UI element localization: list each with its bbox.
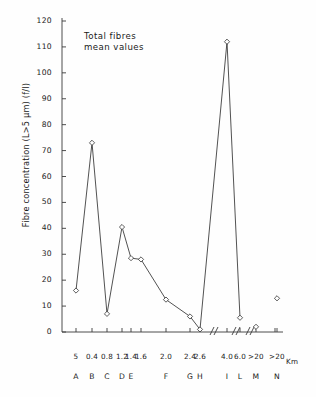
chart-plot-area <box>0 0 316 397</box>
data-point-marker <box>73 288 78 293</box>
data-point-marker <box>163 297 168 302</box>
data-point-marker <box>128 256 133 261</box>
data-point-marker <box>89 140 94 145</box>
axis-break-marks <box>210 327 254 335</box>
data-point-marker <box>274 296 279 301</box>
data-point-marker <box>119 224 124 229</box>
data-point-marker <box>104 311 109 316</box>
data-point-marker <box>224 39 229 44</box>
data-series-line <box>76 42 240 330</box>
figure-panel: Total fibresmean values Fibre concentrat… <box>0 0 316 397</box>
data-point-marker <box>253 324 258 329</box>
axis-ticks <box>62 21 277 332</box>
data-point-marker <box>138 257 143 262</box>
data-point-marker <box>237 315 242 320</box>
